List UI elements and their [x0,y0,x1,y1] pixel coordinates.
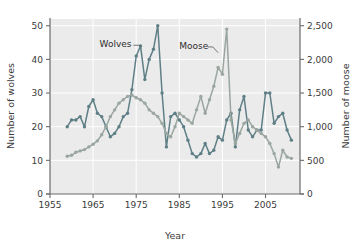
data-point-marker [165,145,168,148]
data-point-marker [264,91,267,94]
data-point-marker [87,105,90,108]
data-point-marker [104,125,107,128]
x-axis-tick-label: 1975 [125,200,148,210]
data-point-marker [173,125,176,128]
data-point-marker [260,128,263,131]
data-point-marker [143,101,146,104]
data-point-marker [100,115,103,118]
data-point-marker [135,54,138,57]
y-axis-right-tick-label: 1,000 [307,122,333,132]
data-point-marker [208,98,211,101]
data-point-marker [216,66,219,69]
data-point-marker [221,138,224,141]
y-axis-left-tick-label: 20 [32,122,44,132]
x-axis-tick-label: 2005 [254,200,277,210]
data-point-marker [225,27,228,30]
y-axis-left-tick-label: 0 [37,189,43,199]
data-point-marker [126,112,129,115]
data-point-marker [234,142,237,145]
data-point-marker [113,108,116,111]
data-point-marker [208,152,211,155]
data-point-marker [83,125,86,128]
data-point-marker [109,135,112,138]
data-point-marker [186,118,189,121]
data-point-marker [195,155,198,158]
data-point-marker [143,78,146,81]
data-point-marker [285,155,288,158]
data-point-marker [195,108,198,111]
y-axis-right-tick-label: 500 [307,156,324,166]
data-point-marker [238,132,241,135]
data-point-marker [109,115,112,118]
y-axis-right-tick-label: 0 [307,189,313,199]
data-point-marker [66,125,69,128]
data-point-marker [70,154,73,157]
data-point-marker [247,118,250,121]
data-point-marker [122,115,125,118]
data-point-marker [160,91,163,94]
wolf-moose-population-chart: 0102030405005001,0001,5002,0002,50019551… [0,0,361,247]
data-point-marker [216,135,219,138]
y-axis-right-tick-label: 2,500 [307,21,333,31]
data-point-marker [242,122,245,125]
data-point-marker [173,112,176,115]
data-point-marker [247,128,250,131]
data-point-marker [74,118,77,121]
data-point-marker [169,115,172,118]
data-point-marker [242,95,245,98]
data-point-marker [277,165,280,168]
data-point-marker [156,24,159,27]
data-point-marker [191,122,194,125]
data-point-marker [277,115,280,118]
data-point-marker [152,48,155,51]
x-axis-tick-label: 1965 [82,200,105,210]
data-point-marker [96,112,99,115]
data-point-marker [70,118,73,121]
data-point-marker [87,145,90,148]
data-point-marker [221,72,224,75]
y-axis-right-tick-label: 2,000 [307,55,333,65]
data-point-marker [272,122,275,125]
data-point-marker [251,125,254,128]
data-point-marker [147,108,150,111]
data-point-marker [113,132,116,135]
data-point-marker [186,138,189,141]
data-point-marker [203,142,206,145]
data-point-marker [160,122,163,125]
data-point-marker [165,132,168,135]
data-point-marker [178,112,181,115]
data-point-marker [126,95,129,98]
data-point-marker [78,115,81,118]
y-axis-left-tick-label: 40 [32,55,44,65]
data-point-marker [281,112,284,115]
data-point-marker [251,135,254,138]
data-point-marker [100,133,103,136]
data-point-marker [83,148,86,151]
y-axis-left-tick-label: 30 [32,88,44,98]
data-point-marker [91,142,94,145]
data-point-marker [139,98,142,101]
data-point-marker [260,132,263,135]
data-point-marker [74,151,77,154]
data-point-marker [182,125,185,128]
data-point-marker [212,149,215,152]
data-point-marker [199,152,202,155]
data-point-marker [147,58,150,61]
y-axis-left-tick-label: 50 [32,21,44,31]
data-point-marker [135,96,138,99]
data-point-marker [234,145,237,148]
data-point-marker [229,118,232,121]
y-axis-left-title: Number of wolves [5,63,16,149]
data-point-marker [272,152,275,155]
x-axis-tick-label: 1955 [39,200,62,210]
data-point-marker [78,149,81,152]
data-point-marker [130,88,133,91]
data-point-marker [290,157,293,160]
data-point-marker [268,91,271,94]
data-point-marker [212,85,215,88]
data-point-marker [281,149,284,152]
y-axis-left-tick-label: 10 [32,156,44,166]
data-point-marker [203,112,206,115]
data-point-marker [268,142,271,145]
data-point-marker [122,98,125,101]
